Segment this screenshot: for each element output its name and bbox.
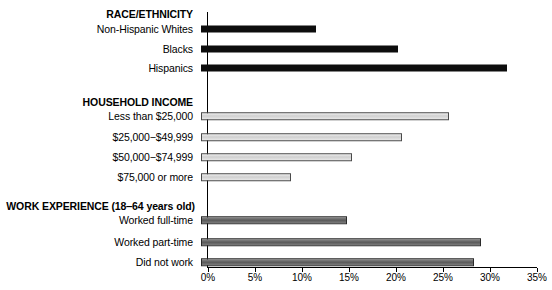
bar-row-25000-49999: $25,000−$49,999 <box>0 128 552 146</box>
x-axis-tick-label: 30% <box>480 272 500 284</box>
bar-50000-74999 <box>201 153 352 161</box>
bar-label-hispanics: Hispanics <box>0 62 200 74</box>
bar-worked-part-time <box>201 238 481 246</box>
bar-label-75000-or-more: $75,000 or more <box>0 171 200 183</box>
bar-blacks <box>201 46 398 53</box>
bar-label-worked-part-time: Worked part-time <box>0 236 200 248</box>
section-heading-race: RACE/ETHNICITY <box>0 8 200 20</box>
x-axis-tick-label: 15% <box>339 272 359 284</box>
bar-track <box>200 40 552 58</box>
bar-label-50000-74999: $50,000−$74,999 <box>0 151 200 163</box>
bar-track <box>200 20 552 38</box>
bar-row-worked-part-time: Worked part-time <box>0 233 552 251</box>
x-axis-tick-label: 0% <box>201 272 215 284</box>
bar-row-hispanics: Hispanics <box>0 59 552 77</box>
bar-label-less-than-25000: Less than $25,000 <box>0 110 200 122</box>
bar-row-non-hispanic-whites: Non-Hispanic Whites <box>0 20 552 38</box>
bar-track <box>200 148 552 166</box>
bar-track <box>200 128 552 146</box>
bar-track <box>200 253 552 271</box>
bar-less-than-25000 <box>201 112 449 120</box>
bar-did-not-work <box>201 258 474 266</box>
plot-area: RACE/ETHNICITY Non-Hispanic Whites Black… <box>0 0 552 290</box>
bar-non-hispanic-whites <box>201 26 316 33</box>
bar-track <box>200 233 552 251</box>
bar-track <box>200 168 552 186</box>
x-axis-tick-label: 25% <box>433 272 453 284</box>
bar-track <box>200 59 552 77</box>
x-axis-tick-label: 35% <box>527 272 547 284</box>
bar-label-25000-49999: $25,000−$49,999 <box>0 131 200 143</box>
bar-row-50000-74999: $50,000−$74,999 <box>0 148 552 166</box>
bar-hispanics <box>201 65 507 72</box>
x-axis-tick-label: 10% <box>292 272 312 284</box>
bar-track <box>200 211 552 229</box>
bar-row-less-than-25000: Less than $25,000 <box>0 107 552 125</box>
bar-label-worked-full-time: Worked full-time <box>0 214 200 226</box>
bar-row-blacks: Blacks <box>0 40 552 58</box>
bar-label-did-not-work: Did not work <box>0 256 200 268</box>
bar-track <box>200 107 552 125</box>
bar-25000-49999 <box>201 133 402 141</box>
bar-worked-full-time <box>201 216 347 224</box>
horizontal-bar-chart: RACE/ETHNICITY Non-Hispanic Whites Black… <box>0 0 552 290</box>
bar-75000-or-more <box>201 173 291 181</box>
bar-label-non-hispanic-whites: Non-Hispanic Whites <box>0 23 200 35</box>
bar-row-worked-full-time: Worked full-time <box>0 211 552 229</box>
bar-label-blacks: Blacks <box>0 43 200 55</box>
x-axis-tick-label: 20% <box>386 272 406 284</box>
x-axis-tick-label: 5% <box>248 272 262 284</box>
bar-row-75000-or-more: $75,000 or more <box>0 168 552 186</box>
bar-row-did-not-work: Did not work <box>0 253 552 271</box>
